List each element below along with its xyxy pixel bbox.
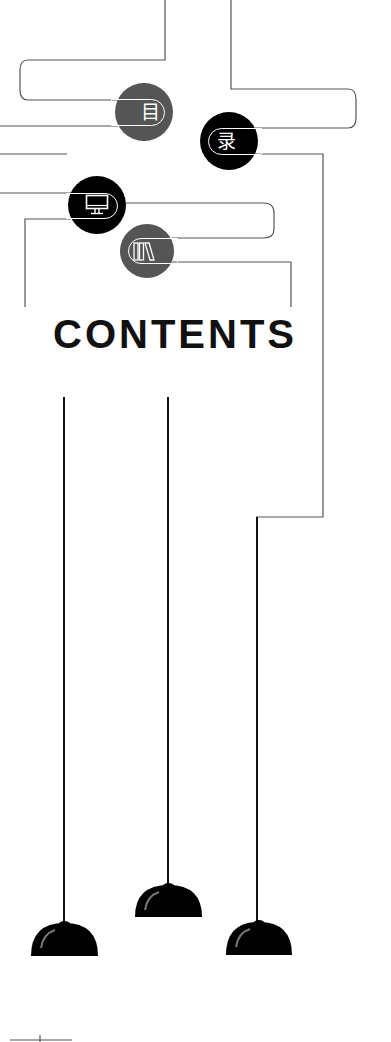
lamp-middle — [135, 883, 202, 917]
monitor-icon — [85, 194, 109, 216]
line-monitor-bracket — [25, 219, 71, 307]
line-books-bracket — [172, 262, 291, 307]
badge-monitor — [68, 176, 126, 234]
line-top-right-loop — [231, 0, 356, 128]
connector-lines — [0, 0, 391, 1042]
lamp-left — [31, 921, 98, 956]
books-icon — [133, 241, 157, 261]
contents-title: CONTENTS — [44, 314, 306, 354]
lu-character-icon: 录 — [217, 132, 236, 151]
badge-lu: 录 — [200, 112, 258, 170]
badge-mu: 目 — [115, 83, 173, 141]
badge-books — [120, 224, 174, 278]
contents-graphic: 目 录 CONTENTS — [0, 0, 391, 1042]
mu-character-icon: 目 — [141, 103, 160, 122]
lamp-right — [226, 920, 292, 955]
